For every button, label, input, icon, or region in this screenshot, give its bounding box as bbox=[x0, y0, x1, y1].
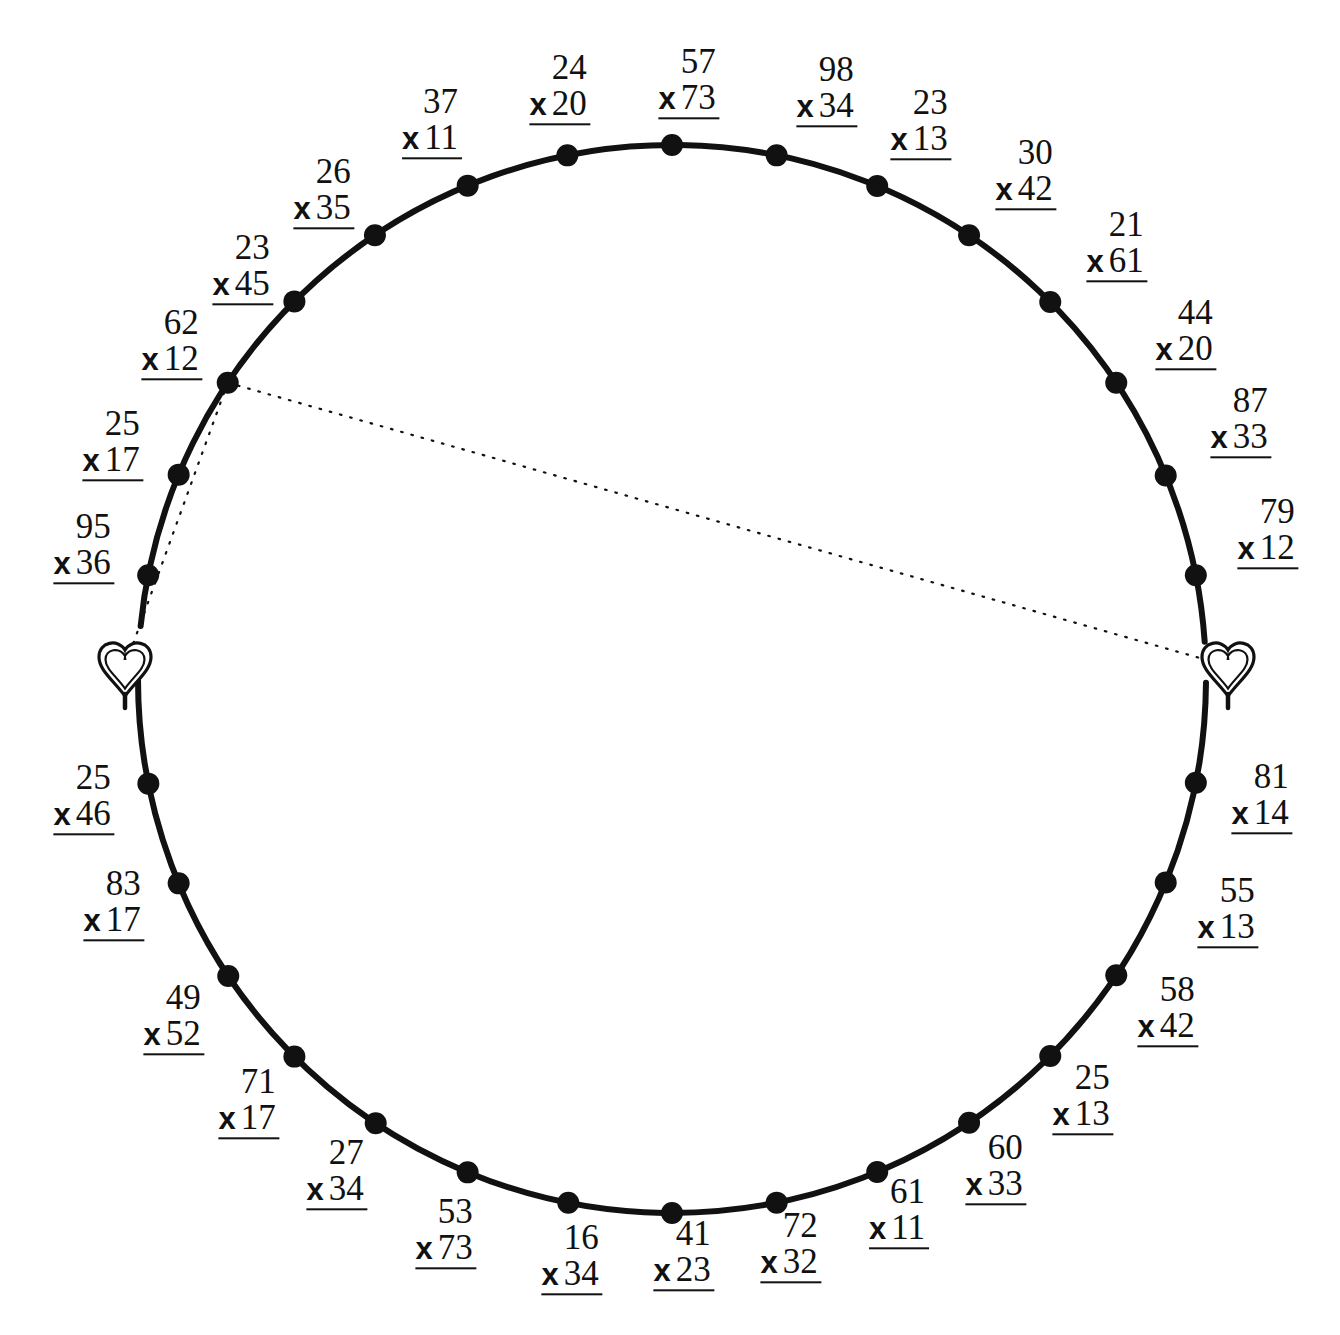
multiplication-problem: 41x23 bbox=[653, 1216, 714, 1291]
problem-dot bbox=[1105, 964, 1127, 986]
multiplicand: 87 bbox=[1210, 383, 1271, 419]
multiplier-row: x33 bbox=[1210, 419, 1271, 459]
multiplication-problem: 25x17 bbox=[82, 406, 143, 481]
multiply-operator: x bbox=[995, 172, 1012, 207]
multiplicand: 44 bbox=[1155, 295, 1216, 331]
multiplicand: 60 bbox=[965, 1130, 1026, 1166]
multiplier-row: x32 bbox=[760, 1244, 821, 1284]
multiplier: 13 bbox=[1220, 907, 1255, 946]
problem-dot bbox=[217, 965, 239, 987]
multiply-operator: x bbox=[83, 903, 100, 938]
multiplier: 36 bbox=[76, 543, 111, 582]
problem-dot bbox=[1185, 772, 1207, 794]
problem-dot bbox=[1185, 564, 1207, 586]
multiplicand: 61 bbox=[869, 1174, 929, 1210]
multiply-operator: x bbox=[796, 89, 813, 124]
multiplier: 73 bbox=[681, 78, 716, 117]
multiplication-problem: 83x17 bbox=[83, 866, 144, 941]
multiplier-row: x61 bbox=[1086, 243, 1147, 283]
multiplier-row: x11 bbox=[402, 120, 462, 160]
multiplication-problem: 25x46 bbox=[53, 760, 114, 835]
multiplier-row: x73 bbox=[658, 80, 719, 120]
multiplier: 42 bbox=[1160, 1006, 1195, 1045]
multiplier: 13 bbox=[1075, 1094, 1110, 1133]
multiplier-row: x13 bbox=[1052, 1096, 1113, 1136]
multiplier: 12 bbox=[164, 339, 199, 378]
multiply-operator: x bbox=[143, 1017, 160, 1052]
multiplier: 20 bbox=[552, 84, 587, 123]
multiplier-row: x13 bbox=[1197, 909, 1258, 949]
multiplier: 33 bbox=[1233, 417, 1268, 456]
multiplicand: 37 bbox=[402, 84, 462, 120]
problem-dot bbox=[364, 224, 386, 246]
worksheet-page: 57x7398x3423x1330x4221x6144x2087x3379x12… bbox=[0, 0, 1340, 1335]
multiplier-row: x33 bbox=[965, 1166, 1026, 1206]
multiplier: 35 bbox=[316, 188, 351, 227]
multiply-operator: x bbox=[965, 1167, 982, 1202]
problem-dot bbox=[283, 1046, 305, 1068]
multiplicand: 24 bbox=[529, 50, 590, 86]
multiplier: 20 bbox=[1178, 329, 1213, 368]
multiplication-problem: 25x13 bbox=[1052, 1060, 1113, 1135]
multiplication-problem: 16x34 bbox=[541, 1220, 602, 1295]
multiplier: 23 bbox=[676, 1250, 711, 1289]
problem-dot bbox=[365, 1112, 387, 1134]
multiply-operator: x bbox=[141, 342, 158, 377]
multiplier: 17 bbox=[105, 440, 140, 479]
problem-dot bbox=[661, 134, 683, 156]
multiply-operator: x bbox=[1237, 531, 1254, 566]
multiply-operator: x bbox=[541, 1257, 558, 1292]
multiplicand: 25 bbox=[1052, 1060, 1113, 1096]
multiplier-row: x36 bbox=[53, 545, 114, 585]
multiplicand: 81 bbox=[1231, 759, 1292, 795]
multiplier-row: x17 bbox=[218, 1100, 279, 1140]
problem-dot bbox=[866, 175, 888, 197]
multiplicand: 23 bbox=[890, 85, 951, 121]
multiplier-row: x42 bbox=[1137, 1008, 1198, 1048]
multiplication-problem: 23x45 bbox=[212, 230, 273, 305]
multiplication-problem: 62x12 bbox=[141, 305, 202, 380]
multiply-operator: x bbox=[218, 1101, 235, 1136]
multiplicand: 16 bbox=[541, 1220, 602, 1256]
multiplication-problem: 30x42 bbox=[995, 135, 1056, 210]
multiplication-problem: 61x11 bbox=[869, 1174, 929, 1249]
multiply-operator: x bbox=[890, 122, 907, 157]
multiplier-row: x23 bbox=[653, 1252, 714, 1292]
multiplicand: 95 bbox=[53, 509, 114, 545]
multiplier-row: x34 bbox=[541, 1256, 602, 1296]
multiplication-problem: 26x35 bbox=[293, 154, 354, 229]
multiplicand: 53 bbox=[415, 1194, 476, 1230]
multiplier: 11 bbox=[891, 1208, 925, 1247]
multiply-operator: x bbox=[293, 191, 310, 226]
problem-dot bbox=[168, 464, 190, 486]
multiplier-row: x73 bbox=[415, 1230, 476, 1270]
problem-dot bbox=[1105, 372, 1127, 394]
problem-dot bbox=[958, 224, 980, 246]
multiplier: 34 bbox=[329, 1169, 364, 1208]
multiply-operator: x bbox=[1197, 910, 1214, 945]
multiplier-row: x11 bbox=[869, 1210, 929, 1250]
multiply-operator: x bbox=[212, 267, 229, 302]
multiplication-problem: 72x32 bbox=[760, 1208, 821, 1283]
multiplier: 34 bbox=[564, 1254, 599, 1293]
multiplier-row: x46 bbox=[53, 796, 114, 836]
heart-left-icon bbox=[99, 643, 151, 708]
multiplier-row: x45 bbox=[212, 266, 273, 306]
multiplier: 17 bbox=[241, 1098, 276, 1137]
multiplication-problem: 60x33 bbox=[965, 1130, 1026, 1205]
multiplicand: 30 bbox=[995, 135, 1056, 171]
multiplicand: 27 bbox=[306, 1135, 367, 1171]
problem-dot bbox=[217, 372, 239, 394]
multiplier-row: x35 bbox=[293, 190, 354, 230]
multiplier: 32 bbox=[783, 1242, 818, 1281]
multiplicand: 26 bbox=[293, 154, 354, 190]
multiplicand: 49 bbox=[143, 980, 204, 1016]
multiplier: 34 bbox=[819, 86, 854, 125]
multiplier: 12 bbox=[1260, 528, 1295, 567]
problem-dot bbox=[1155, 871, 1177, 893]
multiplier: 17 bbox=[106, 900, 141, 939]
multiplier-row: x20 bbox=[1155, 331, 1216, 371]
multiplier: 11 bbox=[424, 118, 458, 157]
multiplicand: 79 bbox=[1237, 494, 1298, 530]
multiplier-row: x13 bbox=[890, 121, 951, 161]
